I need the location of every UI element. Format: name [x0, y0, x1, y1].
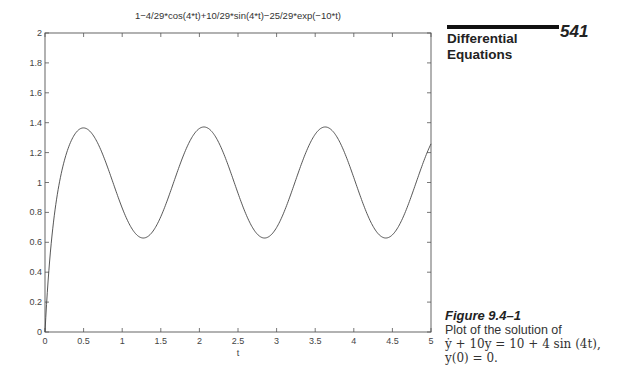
y-tick-label: 0.8 [29, 207, 42, 217]
caption-initial-condition: y(0) = 0. [445, 351, 601, 365]
x-tick-label: 1.5 [155, 336, 168, 346]
section-title-line2: Equations [447, 47, 518, 63]
y-tick-label: 0.2 [29, 297, 42, 307]
y-tick-label: 0.4 [29, 267, 42, 277]
caption-equation: ẏ + 10y = 10 + 4 sin (4t), [445, 337, 601, 351]
figure-caption: Figure 9.4–1 Plot of the solution of ẏ +… [445, 309, 601, 365]
section-title: Differential Equations [447, 31, 518, 63]
caption-text: Plot of the solution of [445, 323, 601, 337]
section-title-line1: Differential [447, 31, 518, 47]
x-axis-label: t [237, 348, 240, 358]
x-tick-label: 3.5 [309, 336, 322, 346]
plot-title: 1−4/29*cos(4*t)+10/29*sin(4*t)−25/29*exp… [45, 10, 431, 21]
y-tick-label: 1.8 [29, 58, 42, 68]
y-tick-label: 0.6 [29, 237, 42, 247]
figure-label: Figure 9.4–1 [445, 309, 601, 323]
solution-plot: 00.20.40.60.811.21.41.61.82 00.511.522.5… [0, 0, 440, 380]
x-tick-label: 2 [197, 336, 202, 346]
page-number: 541 [560, 22, 588, 42]
x-tick-label: 1 [120, 336, 125, 346]
x-tick-label: 0 [42, 336, 47, 346]
y-tick-label: 1.4 [29, 118, 42, 128]
y-tick-labels: 00.20.40.60.811.21.41.61.82 [29, 28, 42, 337]
x-tick-label: 5 [428, 336, 433, 346]
axes-box [45, 33, 431, 332]
x-tick-label: 0.5 [77, 336, 90, 346]
y-tick-label: 1.6 [29, 88, 42, 98]
x-tick-label: 3 [274, 336, 279, 346]
y-tick-label: 1.2 [29, 148, 42, 158]
x-tick-label: 2.5 [232, 336, 245, 346]
y-tick-label: 2 [37, 28, 42, 38]
y-tick-label: 1 [37, 178, 42, 188]
x-tick-label: 4 [351, 336, 356, 346]
x-tick-labels: 00.511.522.533.544.55 [42, 336, 433, 346]
header-rule [447, 25, 559, 29]
solution-curve [45, 127, 431, 332]
ticks [45, 33, 431, 332]
x-tick-label: 4.5 [386, 336, 399, 346]
y-tick-label: 0 [37, 327, 42, 337]
